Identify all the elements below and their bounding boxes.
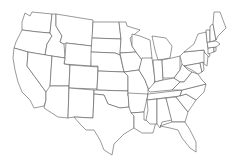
- state-vermont: [206, 30, 210, 42]
- state-maine: [213, 12, 226, 40]
- state-kansas: [97, 71, 128, 91]
- state-florida: [160, 122, 196, 152]
- state-rhode-island: [214, 47, 216, 52]
- state-mississippi: [146, 99, 157, 124]
- state-colorado: [69, 65, 98, 89]
- state-north-dakota: [92, 22, 121, 39]
- state-wyoming: [64, 43, 92, 66]
- state-washington: [22, 12, 52, 33]
- state-montana: [56, 14, 93, 46]
- state-michigan: [152, 36, 172, 60]
- state-indiana: [153, 60, 163, 82]
- state-arkansas: [128, 93, 148, 113]
- state-new-mexico: [68, 88, 94, 118]
- us-states-outline-map: [0, 0, 232, 163]
- state-arizona: [44, 86, 69, 118]
